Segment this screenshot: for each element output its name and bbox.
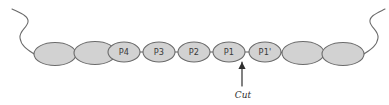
residue-ellipse xyxy=(34,43,76,66)
residue-label-p3: P3 xyxy=(154,47,165,57)
cleavage-annotation: Cut xyxy=(235,62,252,100)
right-chain-tail xyxy=(364,9,385,54)
residue-label-p2: P2 xyxy=(189,47,200,57)
residue-label-p1: P1 xyxy=(224,47,235,57)
residue-label-p1-prime: P1' xyxy=(259,47,272,57)
cleavage-site-arrow-head xyxy=(238,62,245,69)
cut-label: Cut xyxy=(235,90,252,100)
left-chain-tail xyxy=(12,9,34,54)
diagram-canvas: P4 P3 P2 P1 P1' Cut xyxy=(0,0,389,105)
peptide-cleavage-diagram: P4 P3 P2 P1 P1' Cut xyxy=(0,0,389,105)
residue-ellipse xyxy=(322,43,364,66)
residue-label-p4: P4 xyxy=(119,47,130,57)
residue-ellipse xyxy=(282,42,324,65)
